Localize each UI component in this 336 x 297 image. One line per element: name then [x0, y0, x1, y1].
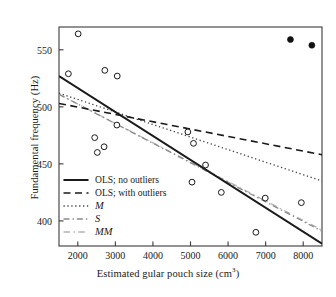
- fit-line: [59, 93, 322, 181]
- x-axis-tick-label: 3000: [105, 250, 125, 261]
- y-axis-tick-label: 400: [22, 215, 52, 226]
- x-axis-title: Estimated gular pouch size (cm3): [0, 266, 336, 279]
- x-axis-tick-label: 6000: [218, 250, 238, 261]
- x-axis-tick-label: 2000: [68, 250, 88, 261]
- data-point: [101, 144, 107, 150]
- legend: OLS; no outliersOLS; with outliersMSMM: [63, 173, 166, 239]
- data-point: [253, 229, 259, 235]
- legend-item-label: MM: [95, 227, 113, 238]
- data-point: [185, 129, 191, 135]
- legend-line-swatch: [63, 214, 89, 224]
- x-axis-tick-label: 7000: [256, 250, 276, 261]
- outlier-point: [287, 37, 293, 43]
- data-point: [203, 162, 209, 168]
- legend-item: S: [63, 213, 166, 226]
- data-point: [218, 189, 224, 195]
- y-axis-title: Fundamental frequency (Hz): [29, 43, 40, 233]
- outlier-point: [309, 42, 315, 48]
- y-axis-tick-label: 500: [22, 101, 52, 112]
- legend-line-swatch: [63, 175, 89, 185]
- legend-line-swatch: [63, 201, 89, 211]
- data-point: [189, 179, 195, 185]
- data-point: [65, 71, 71, 77]
- legend-item: M: [63, 199, 166, 212]
- y-axis-tick-label: 450: [22, 158, 52, 169]
- data-point: [102, 67, 108, 73]
- x-axis-tick-label: 5000: [181, 250, 201, 261]
- legend-item: OLS; no outliers: [63, 173, 166, 186]
- x-axis-title-main: Estimated gular pouch size (cm: [97, 268, 232, 279]
- data-point: [114, 73, 120, 79]
- data-point: [298, 200, 304, 206]
- data-point: [114, 122, 120, 128]
- data-point: [75, 31, 81, 37]
- legend-line-swatch: [63, 227, 89, 237]
- legend-item-label: OLS; with outliers: [95, 188, 166, 198]
- x-axis-tick-label: 8000: [293, 250, 313, 261]
- legend-line-swatch: [63, 188, 89, 198]
- x-axis-tick-label: 4000: [143, 250, 163, 261]
- data-point: [262, 195, 268, 201]
- legend-item-label: OLS; no outliers: [95, 175, 159, 185]
- legend-item-label: M: [95, 201, 104, 212]
- legend-item-label: S: [95, 214, 100, 225]
- data-point: [92, 135, 98, 141]
- y-axis-tick-label: 550: [22, 44, 52, 55]
- x-axis-title-tail: ): [236, 268, 240, 279]
- legend-item: MM: [63, 226, 166, 239]
- legend-item: OLS; with outliers: [63, 186, 166, 199]
- figure-container: Fundamental frequency (Hz) Estimated gul…: [0, 0, 336, 297]
- fit-line: [59, 103, 322, 154]
- data-point: [94, 150, 100, 156]
- data-point: [191, 140, 197, 146]
